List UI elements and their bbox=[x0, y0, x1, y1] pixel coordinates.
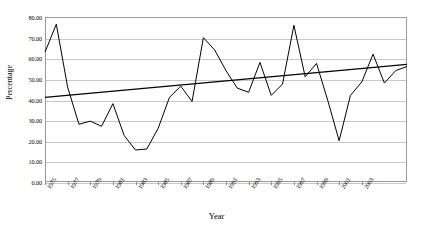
series-layer bbox=[45, 17, 407, 182]
data-series-line bbox=[45, 24, 407, 150]
x-axis-title: Year bbox=[0, 211, 433, 221]
line-chart: 0.0010.0020.0030.0040.0050.0060.0070.008… bbox=[0, 0, 433, 233]
